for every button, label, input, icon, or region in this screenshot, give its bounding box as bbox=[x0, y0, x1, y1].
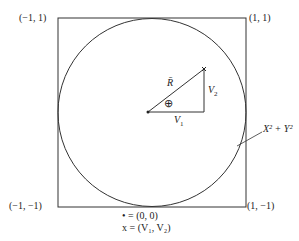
circle-label-leader bbox=[237, 132, 262, 146]
vector-r-label: R̄ bbox=[167, 77, 173, 88]
corner-label-bottom-left: (−1, −1) bbox=[9, 200, 42, 211]
origin-dot bbox=[147, 111, 150, 114]
circle-equation-label: X² + Y² bbox=[263, 123, 292, 134]
angle-theta-symbol: ⊕ bbox=[164, 97, 173, 110]
corner-label-bottom-right: (1, −1) bbox=[247, 200, 274, 211]
legend-x-line: x = (V₁, V₂) bbox=[122, 222, 171, 233]
corner-label-top-right: (1, 1) bbox=[249, 12, 271, 23]
corner-label-top-left: (−1, 1) bbox=[19, 12, 46, 23]
legend-dot-line: • = (0, 0) bbox=[122, 210, 158, 221]
v1-label: V1 bbox=[174, 114, 184, 128]
vector-r-line bbox=[148, 69, 204, 112]
v2-label: V2 bbox=[208, 84, 218, 98]
